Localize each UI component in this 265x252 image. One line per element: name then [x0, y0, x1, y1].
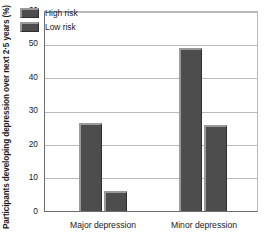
legend-item-low-risk: Low risk [20, 20, 98, 33]
legend-swatch-icon [20, 8, 39, 18]
legend-label: Low risk [45, 22, 76, 32]
y-axis-title: Participants developing depression over … [0, 14, 14, 229]
y-axis-tick-labels: 60 50 40 30 20 10 0 [17, 0, 41, 252]
bar [104, 191, 127, 211]
x-tick-label-major-depression: Major depression [70, 219, 136, 231]
y-tick-label: 50 [29, 39, 38, 48]
x-tick-label-minor-depression: Minor depression [171, 219, 237, 231]
y-tick-label: 20 [29, 140, 38, 149]
bar [204, 125, 227, 211]
y-tick-label: 30 [29, 106, 38, 115]
bar [79, 123, 102, 211]
bar [179, 48, 202, 211]
plot-area [44, 11, 258, 212]
bar-series-container [45, 12, 257, 211]
bar-chart-figure: Participants developing depression over … [0, 0, 265, 252]
y-tick-label: 0 [33, 207, 38, 216]
y-tick-label: 40 [29, 73, 38, 82]
x-axis-category-labels: Major depression Minor depression [44, 219, 258, 233]
legend-swatch-icon [20, 22, 39, 32]
chart-legend: High risk Low risk [20, 6, 98, 34]
legend-label: High risk [45, 8, 78, 18]
legend-item-high-risk: High risk [20, 6, 98, 19]
y-tick-label: 10 [29, 173, 38, 182]
